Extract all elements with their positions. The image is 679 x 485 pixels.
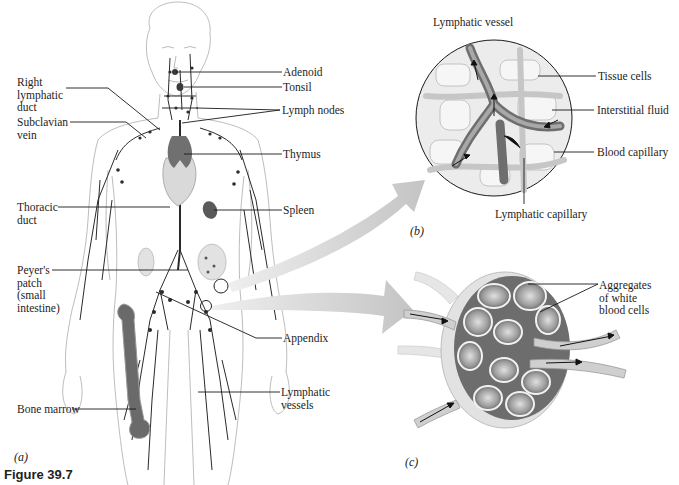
- panel-tag-b: (b): [410, 224, 424, 239]
- panel-tag-a: (a): [14, 450, 28, 465]
- panel-tag-c: (c): [405, 455, 418, 470]
- figure-caption: Figure 39.7: [4, 467, 73, 482]
- label-lymph-nodes: Lymph nodes: [282, 104, 344, 117]
- tonsil: [177, 83, 184, 91]
- label-aggregates-white-blood-cells: Aggregates of white blood cells: [599, 279, 651, 317]
- label-lymphatic-capillary: Lymphatic capillary: [495, 208, 587, 221]
- label-tissue-cells: Tissue cells: [598, 70, 652, 83]
- label-appendix: Appendix: [283, 332, 328, 345]
- label-lymphatic-vessels: Lymphatic vessels: [281, 386, 330, 411]
- label-interstitial-fluid: Interstitial fluid: [597, 104, 669, 117]
- arrow-to-b: [228, 180, 425, 292]
- lymphatic-system-illustration: [0, 0, 679, 485]
- label-bone-marrow: Bone marrow: [17, 403, 80, 416]
- label-adenoid: Adenoid: [283, 66, 323, 79]
- heart: [163, 158, 196, 206]
- label-right-lymphatic-duct: Right lymphatic duct: [17, 76, 63, 114]
- label-lymphatic-vessel: Lymphatic vessel: [433, 16, 513, 29]
- magnify-circle-capillary: [214, 279, 228, 293]
- label-thoracic-duct: Thoracic duct: [17, 201, 58, 226]
- intestines: [138, 244, 226, 280]
- label-thymus: Thymus: [283, 148, 321, 161]
- lymphatic-network: [80, 54, 276, 470]
- label-subclavian-vein: Subclavian vein: [17, 116, 68, 141]
- magnify-circle-node: [201, 301, 212, 312]
- lymph-node: [398, 272, 626, 428]
- femur: [118, 304, 150, 438]
- capillary-bed-circle: [416, 40, 572, 196]
- label-blood-capillary: Blood capillary: [597, 146, 668, 159]
- label-tonsil: Tonsil: [283, 81, 312, 94]
- label-spleen: Spleen: [283, 204, 314, 217]
- label-peyers-patch: Peyer's patch (small intestine): [17, 264, 60, 314]
